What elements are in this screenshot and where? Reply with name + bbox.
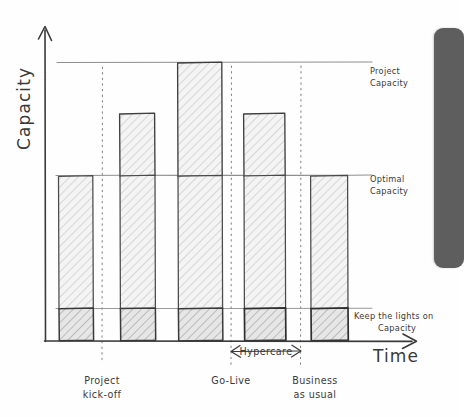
- golive-label: Go-Live: [211, 375, 250, 386]
- bar-2[interactable]: [120, 113, 156, 341]
- milestone-line-go-live: [231, 66, 232, 368]
- legend-keep-the-lights-on-capacity: Keep the lights on Capacity: [354, 311, 434, 333]
- optimal-capacity-label-line2: Capacity: [370, 186, 408, 196]
- y-axis-label: Capacity: [14, 67, 34, 150]
- milestone-line-business-as-usual: [301, 66, 302, 368]
- milestone-label-project-kick-off: Project kick-off: [83, 375, 122, 400]
- hypercare-label: Hypercare: [239, 346, 292, 357]
- milestone-label-business-as-usual: Business as usual: [292, 375, 338, 400]
- bar-1[interactable]: [59, 176, 94, 341]
- optimal-capacity-label-line1: Optimal: [370, 174, 405, 184]
- legend-optimal-capacity: Optimal Capacity: [370, 174, 408, 196]
- bar-3[interactable]: [178, 62, 223, 341]
- bau-label-line2: as usual: [294, 389, 337, 400]
- milestone-label-go-live: Go-Live: [211, 375, 250, 386]
- project-capacity-label-line2: Capacity: [370, 78, 408, 88]
- bar-4[interactable]: [244, 113, 286, 341]
- bar-5[interactable]: [311, 175, 349, 341]
- keep-lights-label-line2: Capacity: [378, 323, 416, 333]
- kickoff-label-line2: kick-off: [83, 389, 122, 400]
- milestone-line-project-kick-off: [102, 67, 103, 360]
- bau-label-line1: Business: [292, 375, 338, 386]
- y-axis: [39, 27, 52, 342]
- legend-project-capacity: Project Capacity: [370, 66, 408, 88]
- project-capacity-label-line1: Project: [370, 66, 401, 76]
- collapsed-side-panel[interactable]: [434, 28, 464, 268]
- keep-lights-label-line1: Keep the lights on: [354, 311, 434, 321]
- x-axis-label: Time: [372, 346, 419, 366]
- kickoff-label-line1: Project: [84, 375, 120, 386]
